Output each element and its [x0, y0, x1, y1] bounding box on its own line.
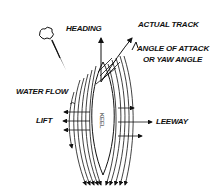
- wind-cloud-icon: [39, 27, 66, 70]
- diagram-drawing: [0, 0, 220, 196]
- water-flow-label: WATER FLOW: [16, 88, 68, 96]
- lift-label: LIFT: [36, 117, 52, 125]
- streamlines-right: [106, 56, 133, 185]
- angle-of-attack-label: ANGLE OF ATTACK: [137, 45, 209, 53]
- leeway-label: LEEWAY: [156, 118, 188, 126]
- leeway-arrows: [118, 108, 152, 136]
- yaw-angle-label: OR YAW ANGLE: [143, 56, 202, 64]
- actual-track-label: ACTUAL TRACK: [138, 21, 199, 29]
- water-flow-pointer: [70, 103, 75, 105]
- keel-flow-diagram: HEADING ACTUAL TRACK ANGLE OF ATTACK OR …: [0, 0, 220, 196]
- heading-label: HEADING: [66, 25, 102, 33]
- keel-label: KEEL: [99, 113, 105, 128]
